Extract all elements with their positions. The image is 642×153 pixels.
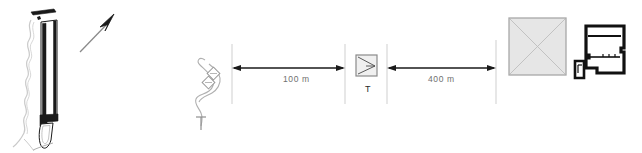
site-plan-drawing: 100 m 400 m T	[0, 0, 642, 153]
drawing-vector-layer	[0, 0, 642, 153]
north-arrow-shaft	[80, 22, 109, 52]
path-centerline	[196, 59, 214, 126]
dim-400-arrowhead-right	[487, 65, 496, 71]
wall-coping-tick	[37, 16, 41, 20]
path-terminal-post	[196, 117, 206, 130]
winding-path	[196, 59, 221, 130]
outbuilding-outline	[575, 61, 584, 78]
transformer-symbol	[356, 55, 377, 76]
wall-coping	[31, 9, 56, 15]
building-floor-plan	[586, 26, 624, 73]
hipped-roof-building	[509, 18, 566, 75]
ground-line-left	[24, 139, 34, 151]
dim-100-arrowhead-right	[336, 65, 345, 71]
wall-outer-leaf	[54, 21, 57, 116]
north-arrow	[80, 14, 114, 52]
dim-100-arrowhead-left	[232, 65, 241, 71]
floor-plan-outer-wall	[586, 26, 624, 73]
wall-inner-leaf	[43, 23, 47, 116]
dimension-400m	[387, 40, 496, 104]
dimension-label-100m: 100 m	[283, 74, 310, 84]
foundation-pile	[39, 123, 53, 148]
wall-section-detail	[13, 9, 58, 151]
small-outbuilding	[575, 61, 584, 78]
transformer-label: T	[365, 84, 371, 94]
dim-400-arrowhead-left	[387, 65, 396, 71]
dimension-label-400m: 400 m	[428, 74, 455, 84]
